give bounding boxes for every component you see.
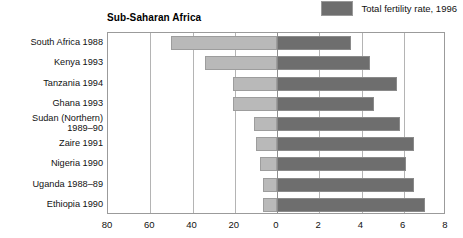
category-axis: South Africa 1988Kenya 1993Tanzania 1994…	[0, 32, 103, 214]
category-label: Tanzania 1994	[0, 78, 103, 88]
bar-left	[263, 198, 277, 212]
bar-left	[205, 56, 277, 70]
category-label: South Africa 1988	[0, 37, 103, 47]
x-tick-right-2: 2	[316, 219, 321, 230]
chart-row	[108, 175, 444, 195]
bar-right	[277, 198, 425, 212]
x-tick-right-8: 8	[442, 219, 447, 230]
category-label-line: Zaire 1991	[0, 138, 103, 148]
category-label-line: Tanzania 1994	[0, 78, 103, 88]
x-tick-left-80: 80	[102, 219, 113, 230]
category-label-line: Ghana 1993	[0, 98, 103, 108]
bar-right	[277, 97, 374, 111]
chart-row	[108, 53, 444, 73]
x-tick-right-4: 4	[358, 219, 363, 230]
bar-left	[233, 97, 277, 111]
chart-row	[108, 114, 444, 134]
bar-left	[260, 157, 277, 171]
bar-left	[256, 137, 277, 151]
bar-left	[171, 36, 277, 50]
category-label: Kenya 1993	[0, 57, 103, 67]
bar-right	[277, 77, 397, 91]
page-title: Sub-Saharan Africa	[107, 12, 201, 23]
category-label-line: Uganda 1988–89	[0, 179, 103, 189]
legend: Total fertility rate, 1996	[321, 1, 457, 16]
chart-row	[108, 33, 444, 53]
bar-right	[277, 137, 414, 151]
bar-left	[254, 117, 277, 131]
chart-row	[108, 195, 444, 215]
category-label-line: Kenya 1993	[0, 57, 103, 67]
category-label: Ethiopia 1990	[0, 199, 103, 209]
legend-label: Total fertility rate, 1996	[361, 3, 457, 14]
plot-area	[107, 32, 445, 214]
category-label-line: Nigeria 1990	[0, 158, 103, 168]
value-axis: 8060402002468	[0, 214, 463, 238]
legend-swatch-icon	[321, 1, 353, 16]
bar-right	[277, 36, 351, 50]
bar-left	[233, 77, 277, 91]
category-label: Sudan (Northern)1989–90	[0, 113, 103, 133]
category-label-line: Sudan (Northern)	[0, 113, 103, 123]
chart-row	[108, 134, 444, 154]
bar-right	[277, 56, 370, 70]
category-label: Nigeria 1990	[0, 158, 103, 168]
category-label: Zaire 1991	[0, 138, 103, 148]
chart-row	[108, 73, 444, 93]
x-tick-left-60: 60	[144, 219, 155, 230]
bar-left	[263, 178, 277, 192]
category-label-line: Ethiopia 1990	[0, 199, 103, 209]
category-label-line: South Africa 1988	[0, 37, 103, 47]
bar-right	[277, 178, 414, 192]
chart-row	[108, 94, 444, 114]
chart-row	[108, 154, 444, 174]
x-tick-left-20: 20	[228, 219, 239, 230]
bar-right	[277, 117, 400, 131]
category-label: Ghana 1993	[0, 98, 103, 108]
bar-right	[277, 157, 406, 171]
category-label: Uganda 1988–89	[0, 179, 103, 189]
category-label-line: 1989–90	[0, 123, 103, 133]
x-tick-right-6: 6	[400, 219, 405, 230]
x-tick-left-40: 40	[186, 219, 197, 230]
x-tick-right-0: 0	[273, 219, 278, 230]
